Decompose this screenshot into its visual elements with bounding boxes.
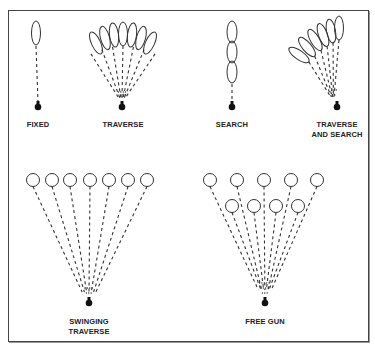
gun-icon bbox=[119, 101, 126, 110]
gun-icon bbox=[229, 101, 236, 110]
label-free-gun: FREE GUN bbox=[245, 317, 285, 327]
beaten-zone-ellipse bbox=[32, 21, 41, 45]
line-of-fire bbox=[36, 46, 38, 102]
gun-icon bbox=[334, 101, 341, 110]
target-circle bbox=[231, 174, 244, 187]
line-of-fire bbox=[254, 213, 264, 291]
target-circle bbox=[285, 174, 298, 187]
fire-techniques-diagram bbox=[0, 0, 375, 351]
target-circle bbox=[27, 174, 40, 187]
target-circle bbox=[84, 174, 97, 187]
line-of-fire bbox=[321, 50, 332, 97]
line-of-fire bbox=[269, 213, 298, 291]
target-circle bbox=[248, 200, 261, 213]
line-of-fire bbox=[89, 187, 90, 293]
label-swinging-traverse-line1: SWINGING bbox=[69, 317, 109, 327]
beaten-zone-ellipse bbox=[305, 27, 325, 52]
label-fixed: FIXED bbox=[27, 120, 50, 130]
line-of-fire bbox=[210, 187, 258, 291]
line-of-fire bbox=[123, 47, 133, 98]
line-of-fire bbox=[96, 187, 147, 293]
gun-icon bbox=[262, 297, 269, 306]
gun-icon bbox=[86, 297, 93, 306]
target-circle bbox=[141, 174, 154, 187]
traverse-technique bbox=[87, 22, 159, 110]
target-circle bbox=[226, 200, 239, 213]
free-gun-technique bbox=[204, 174, 324, 307]
target-circle bbox=[204, 174, 217, 187]
line-of-fire bbox=[33, 187, 82, 293]
target-circle bbox=[122, 174, 135, 187]
line-of-fire bbox=[264, 187, 265, 291]
beaten-zone-ellipse bbox=[227, 41, 237, 63]
line-of-fire bbox=[315, 56, 332, 97]
target-circle bbox=[64, 174, 77, 187]
label-traverse-and-search-line2: AND SEARCH bbox=[311, 130, 362, 140]
label-search: SEARCH bbox=[216, 120, 248, 130]
line-of-fire bbox=[309, 62, 331, 97]
swinging-traverse-technique bbox=[27, 174, 154, 307]
target-circle bbox=[311, 174, 324, 187]
target-circle bbox=[258, 174, 271, 187]
traverse-and-search-technique bbox=[287, 16, 344, 110]
line-of-fire bbox=[266, 213, 276, 291]
line-of-fire bbox=[91, 187, 109, 293]
line-of-fire bbox=[334, 40, 339, 97]
label-swinging-traverse-line2: TRAVERSE bbox=[68, 327, 109, 337]
line-of-fire bbox=[271, 187, 317, 291]
beaten-zone-ellipse bbox=[227, 61, 237, 83]
line-of-fire bbox=[268, 187, 291, 291]
line-of-fire bbox=[125, 54, 155, 98]
line-of-fire bbox=[52, 187, 84, 293]
target-circle bbox=[270, 200, 283, 213]
fixed-technique bbox=[32, 21, 42, 110]
search-technique bbox=[227, 21, 237, 110]
line-of-fire bbox=[70, 187, 87, 293]
line-of-fire bbox=[122, 46, 123, 98]
label-traverse: TRAVERSE bbox=[102, 120, 143, 130]
gun-icon bbox=[35, 101, 42, 110]
target-circle bbox=[103, 174, 116, 187]
beaten-zone-ellipse bbox=[227, 21, 237, 43]
label-traverse-and-search-line1: TRAVERSE bbox=[316, 120, 357, 130]
beaten-zone-ellipse bbox=[119, 22, 128, 46]
target-circle bbox=[46, 174, 59, 187]
beaten-zone-ellipse bbox=[335, 16, 344, 40]
beaten-zone-ellipse bbox=[287, 44, 312, 65]
line-of-fire bbox=[102, 50, 120, 98]
line-of-fire bbox=[94, 187, 128, 293]
target-circle bbox=[292, 200, 305, 213]
